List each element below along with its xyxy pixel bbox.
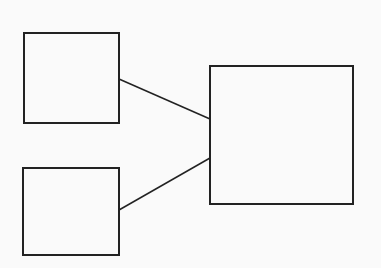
box-bottom-left	[23, 168, 119, 255]
edge-box-bottom-left-to-box-right	[119, 158, 210, 210]
diagram-canvas	[0, 0, 381, 268]
box-right	[210, 66, 353, 204]
edge-box-top-left-to-box-right	[119, 79, 210, 119]
box-top-left	[24, 33, 119, 123]
